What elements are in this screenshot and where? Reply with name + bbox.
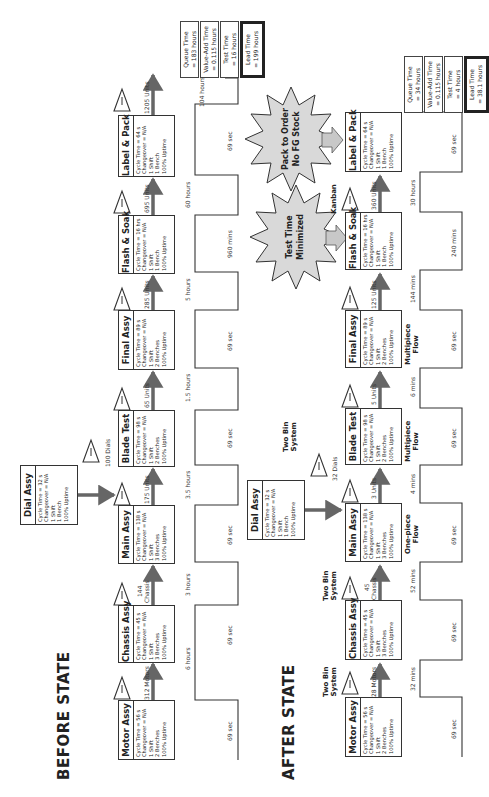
summary-label: Queue Time <box>406 57 414 112</box>
wait-time: 3 hours <box>184 573 191 596</box>
summary-label: Value-Add Time <box>426 57 434 112</box>
uptime: 100% Uptime <box>161 508 167 561</box>
process-time: 240 mins <box>450 229 457 257</box>
burst-test-time-text: Test Time Minimized <box>284 207 306 267</box>
process-time: 69 sec <box>226 525 233 545</box>
changeover: Changeover = N/A <box>368 115 374 169</box>
wait-time: 6 hours <box>184 647 191 670</box>
wait-time: 1.5 hours <box>184 374 191 402</box>
value-stream-map: BEFORE STATE Motor Assy Cycle Time = 56 … <box>0 0 489 797</box>
uptime: 100% Uptime <box>290 483 296 537</box>
process-name: Label & Pack <box>119 116 134 176</box>
before-process-main-assy: Main Assy Cycle Time = 138 s Changeover … <box>118 505 175 564</box>
uptime: 100% Uptime <box>388 411 394 462</box>
process-time: 960 mins <box>226 230 233 258</box>
changeover: Changeover = N/A <box>368 411 374 462</box>
summary-value: = 0.115 hours <box>210 22 218 77</box>
process-name: Blade Test <box>346 409 361 464</box>
note-line: System <box>290 422 298 452</box>
after-process-chassis-assy: Chassis Assy Cycle Time = 45 s Changeove… <box>345 600 402 660</box>
uptime: 100% Uptime <box>63 468 69 522</box>
process-name: Blade Test <box>119 411 134 466</box>
note-line: Flow <box>412 514 420 554</box>
wait-time: 60 hours <box>184 182 191 208</box>
burst-pack-to-order-text: Pack to Order No FG Stock <box>280 104 302 174</box>
process-name: Main Assy <box>119 506 134 563</box>
after-lead-time: Lead Time = 38.1 hours <box>464 56 489 113</box>
after-process-motor-assy: Motor Assy Cycle Time = 56 s Changeover … <box>345 697 402 757</box>
inventory-label: 695 Units <box>143 184 150 213</box>
inventory-label: 360 Units <box>370 181 377 210</box>
note-line: Two Bin <box>282 422 290 452</box>
summary-label: Test Time <box>446 57 454 112</box>
inventory-label: 125 Units <box>370 280 377 309</box>
process-time: 69 sec <box>226 131 233 151</box>
flow-note-multipiece: Multipiece Flow <box>404 421 420 462</box>
flow-note-two-bin: Two Bin System <box>282 422 298 452</box>
uptime: 100% Uptime <box>388 313 394 365</box>
summary-label: Queue Time <box>182 22 190 77</box>
uptime: 100% Uptime <box>161 118 167 174</box>
flow-note-two-bin: Two Bin System <box>322 667 338 697</box>
uptime: 100% Uptime <box>161 413 167 464</box>
note-line: System <box>330 571 338 601</box>
wait-time: 30 hours <box>409 180 416 206</box>
process-name: Chassis Assy <box>119 606 134 662</box>
changeover: Changeover = N/A <box>270 483 276 537</box>
process-time: 69 sec <box>450 331 457 351</box>
uptime: 100% Uptime <box>388 603 394 657</box>
uptime: 100% Uptime <box>388 115 394 169</box>
after-queue-time: Queue Time = 34 hours <box>404 56 423 113</box>
process-name: Motor Assy <box>346 698 361 756</box>
inventory-label: Chassis <box>143 580 150 603</box>
after-process-main-assy: Main Assy Cycle Time = 138 s Changeover … <box>345 503 402 562</box>
process-time: 69 sec <box>450 719 457 739</box>
note-line: Two Bin <box>322 571 330 601</box>
wait-time: 52 mins <box>409 569 416 593</box>
wait-time: 104 hours <box>198 77 205 107</box>
after-process-label-pack: Label & Pack Cycle Time = 64 s Changeove… <box>345 112 402 172</box>
changeover: Changeover = N/A <box>141 118 147 174</box>
note-line: System <box>330 667 338 697</box>
summary-label: Test Time <box>222 22 230 77</box>
changeover: Changeover = N/A <box>141 608 147 660</box>
summary-value: = 34 hours <box>414 57 422 112</box>
process-name: Dial Assy <box>21 466 36 524</box>
process-time: 69 sec <box>226 625 233 645</box>
before-lead-time: Lead Time = 199 hours <box>240 21 265 78</box>
before-process-flash-soak: Flash & Soak Cycle Time = 16 hrs Changeo… <box>118 215 175 274</box>
process-name: Flash & Soak <box>346 213 361 269</box>
changeover: Changeover = N/A <box>368 313 374 365</box>
before-timeline <box>195 78 238 760</box>
inventory-label: 312 Motors <box>143 666 150 700</box>
burst-line: No FG Stock <box>291 104 302 174</box>
before-process-chassis-assy: Chassis Assy Cycle Time = 45 s Changeove… <box>118 605 175 663</box>
flow-note-multipiece: Multipiece Flow <box>404 324 420 365</box>
inventory-label: 175 Units <box>143 475 150 504</box>
uptime: 100% Uptime <box>161 218 167 271</box>
wait-time: 5 hours <box>184 278 191 301</box>
process-name: Chassis Assy <box>346 601 361 659</box>
changeover: Changeover = N/A <box>141 313 147 367</box>
changeover: Changeover = N/A <box>43 468 49 522</box>
summary-value: = 0.115 hours <box>434 57 442 112</box>
summary-value: = 199 hours <box>252 24 260 75</box>
process-time: 69 sec <box>450 134 457 154</box>
inventory-label: Chassis <box>370 577 377 600</box>
burst-line: Minimized <box>295 207 306 267</box>
inventory-label: 1205 Units <box>143 81 150 114</box>
uptime: 100% Uptime <box>161 608 167 660</box>
flow-note-two-bin: Two Bin System <box>322 571 338 601</box>
before-value-add-time: Value-Add Time = 0.115 hours <box>200 21 219 78</box>
burst-line: Pack to Order <box>280 104 291 174</box>
after-test-time: Test Time = 4 hours <box>444 56 463 113</box>
note-line: Flow <box>412 324 420 365</box>
note-line: Multipiece <box>404 421 412 462</box>
changeover: Changeover = N/A <box>368 603 374 657</box>
process-time: 69 sec <box>226 721 233 741</box>
before-process-blade-test: Blade Test Cycle Time = 98 s Changeover … <box>118 410 175 467</box>
process-name: Motor Assy <box>119 701 134 759</box>
after-process-final-assy: Final Assy Cycle Time = 89 s Changeover … <box>345 310 402 368</box>
wait-time: 32 mins <box>409 667 416 691</box>
changeover: Changeover = N/A <box>141 703 147 757</box>
